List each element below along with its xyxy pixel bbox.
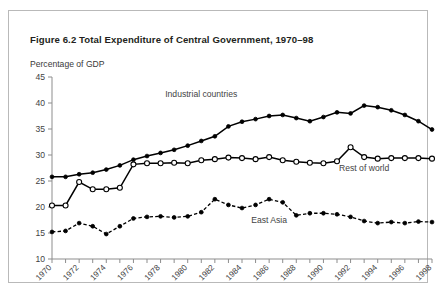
data-point (145, 154, 149, 158)
data-point (417, 119, 421, 123)
data-point (362, 219, 366, 223)
data-point (186, 214, 190, 218)
data-point (64, 229, 68, 233)
data-point (389, 156, 394, 161)
data-point (349, 112, 353, 116)
figure-title: Figure 6.2 Total Expenditure of Central … (30, 34, 314, 45)
data-point (104, 168, 108, 172)
data-point (199, 158, 204, 163)
data-point (172, 148, 176, 152)
x-tick-label: 1990 (306, 263, 326, 283)
y-tick-label: 45 (35, 72, 45, 82)
data-point (77, 221, 81, 225)
data-point (321, 161, 326, 166)
y-tick-label: 35 (35, 124, 45, 134)
data-point (402, 156, 407, 161)
series-annotation: East Asia (251, 215, 287, 225)
data-point (240, 120, 244, 124)
x-tick-label: 1996 (387, 263, 407, 283)
data-point (307, 160, 312, 165)
data-point (335, 212, 339, 216)
data-point (403, 221, 407, 225)
data-point (430, 128, 434, 132)
y-tick-label: 20 (35, 202, 45, 212)
data-point (376, 105, 380, 109)
y-tick-label: 15 (35, 228, 45, 238)
data-point (308, 211, 312, 215)
x-tick-label: 1994 (360, 263, 380, 283)
data-point (213, 197, 217, 201)
data-point (281, 113, 285, 117)
data-point (185, 161, 190, 166)
data-point (212, 157, 217, 162)
data-point (77, 172, 81, 176)
data-point (132, 158, 136, 162)
data-point (172, 160, 177, 165)
data-point (281, 200, 285, 204)
data-point (227, 203, 231, 207)
x-tick-label: 1978 (143, 263, 163, 283)
data-point (50, 230, 54, 234)
data-point (294, 116, 298, 120)
data-point (430, 220, 434, 224)
data-point (267, 155, 272, 160)
y-tick-label: 10 (35, 254, 45, 264)
data-point (389, 108, 393, 112)
data-point (253, 157, 258, 162)
data-point (294, 159, 299, 164)
data-point (416, 156, 421, 161)
x-tick-label: 1986 (251, 263, 271, 283)
data-point (375, 156, 380, 161)
data-point (348, 145, 353, 150)
data-point (118, 224, 122, 228)
y-tick-label: 25 (35, 176, 45, 186)
data-point (349, 215, 353, 219)
data-point (145, 161, 150, 166)
data-point (159, 214, 163, 218)
data-point (430, 156, 435, 161)
data-point (159, 151, 163, 155)
data-point (50, 203, 55, 208)
data-point (308, 119, 312, 123)
data-point (240, 206, 244, 210)
data-point (240, 156, 245, 161)
data-point (117, 185, 122, 190)
x-tick-label: 1980 (170, 263, 190, 283)
data-point (213, 134, 217, 138)
x-tick-label: 1988 (278, 263, 298, 283)
x-tick-label: 1976 (116, 263, 136, 283)
x-tick-label: 1998 (414, 263, 434, 283)
data-point (91, 171, 95, 175)
x-tick-label: 1970 (34, 263, 54, 283)
x-tick-label: 1984 (224, 263, 244, 283)
data-point (362, 155, 367, 160)
data-point (77, 180, 82, 185)
data-point (145, 215, 149, 219)
data-point (91, 224, 95, 228)
data-point (226, 155, 231, 160)
data-point (227, 125, 231, 129)
data-point (104, 187, 109, 192)
x-tick-label: 1974 (88, 263, 108, 283)
data-point (403, 113, 407, 117)
data-point (50, 175, 54, 179)
data-point (322, 211, 326, 215)
data-point (131, 162, 136, 167)
data-point (132, 217, 136, 221)
series-line-east-asia (52, 199, 432, 234)
data-point (254, 203, 258, 207)
data-point (118, 164, 122, 168)
data-point (267, 114, 271, 118)
data-point (199, 139, 203, 143)
series-annotation: Industrial countries (165, 89, 237, 99)
data-point (280, 158, 285, 163)
data-point (294, 213, 298, 217)
chart-plot-area: 1015202530354045197019721974197619781980… (23, 71, 437, 291)
data-point (64, 175, 68, 179)
data-point (335, 110, 339, 114)
data-point (172, 216, 176, 220)
data-point (158, 161, 163, 166)
data-point (362, 104, 366, 108)
data-point (267, 197, 271, 201)
data-point (199, 210, 203, 214)
